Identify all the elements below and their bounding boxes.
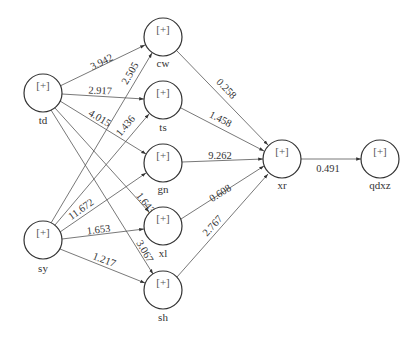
node-gn: [+] gn <box>144 144 182 195</box>
node-label-xr: xr <box>277 179 287 191</box>
node-sy: [+] sy <box>24 221 62 274</box>
node-glyph: [+] <box>36 79 50 91</box>
node-label-sh: sh <box>158 311 168 323</box>
node-qdxz: [+] qdxz <box>361 140 399 191</box>
edge-cw-xr <box>177 51 268 145</box>
node-label-cw: cw <box>157 57 170 69</box>
weight-td-ts: 2.917 <box>88 84 112 96</box>
node-sh: [+] sh <box>144 271 182 323</box>
neural-network-diagram: 3.942 2.917 4.015 1.643 3.067 2.505 1.43… <box>0 0 419 338</box>
node-label-gn: gn <box>158 183 170 195</box>
node-label-xl: xl <box>159 247 168 259</box>
node-glyph: [+] <box>275 145 289 157</box>
edges-td <box>51 45 153 274</box>
node-xr: [+] xr <box>263 140 301 191</box>
weight-sh-xr: 2.767 <box>200 213 224 238</box>
node-glyph: [+] <box>156 23 170 35</box>
node-glyph: [+] <box>156 86 170 98</box>
node-label-qdxz: qdxz <box>369 179 391 191</box>
weight-ts-xr: 1.458 <box>208 109 234 130</box>
node-label-td: td <box>39 114 48 126</box>
node-ts: [+] ts <box>144 81 182 133</box>
node-label-ts: ts <box>159 121 166 133</box>
weight-gn-xr: 9.262 <box>208 150 232 161</box>
node-glyph: [+] <box>373 145 387 157</box>
weight-sy-ts: 1.436 <box>114 113 138 138</box>
weight-xl-xr: 0.608 <box>207 182 233 204</box>
node-glyph: [+] <box>156 149 170 161</box>
node-glyph: [+] <box>36 226 50 238</box>
weight-sy-cw: 2.505 <box>119 60 140 86</box>
weight-sy-xl: 1.653 <box>86 223 111 237</box>
node-glyph: [+] <box>156 276 170 288</box>
weight-td-cw: 3.942 <box>88 52 114 72</box>
node-glyph: [+] <box>156 212 170 224</box>
weight-xr-qdxz: 0.491 <box>316 163 340 174</box>
edge-sy-ts <box>55 114 149 225</box>
weight-cw-xr: 0.258 <box>214 76 238 101</box>
node-label-sy: sy <box>38 262 48 274</box>
node-cw: [+] cw <box>144 18 182 69</box>
